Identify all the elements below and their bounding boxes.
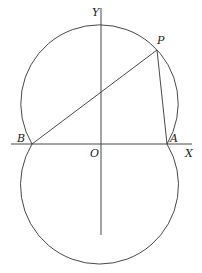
- origin-label: O: [90, 147, 99, 160]
- upper-arc: [21, 25, 178, 144]
- lower-arc: [20, 144, 178, 264]
- point-p-label: P: [156, 34, 165, 47]
- segment-bp: [32, 50, 157, 144]
- x-axis-label: X: [184, 147, 194, 160]
- point-a-label: A: [169, 132, 178, 145]
- y-axis-label: Y: [92, 6, 101, 19]
- segment-pa: [157, 50, 167, 144]
- geometry-figure: Y X O P A B: [0, 0, 202, 273]
- point-b-label: B: [16, 132, 25, 145]
